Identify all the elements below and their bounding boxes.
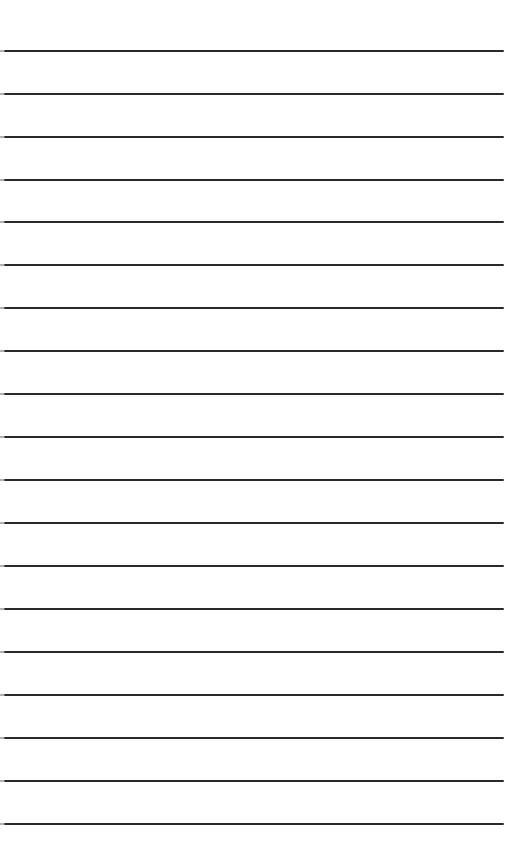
ruled-line [4, 136, 504, 138]
ruled-line [4, 221, 504, 223]
ruled-line [4, 350, 504, 352]
ruled-line [4, 479, 504, 481]
ruled-line [4, 436, 504, 438]
lined-paper [0, 0, 506, 867]
ruled-line [4, 651, 504, 653]
ruled-line [4, 780, 504, 782]
ruled-line [4, 50, 504, 52]
ruled-line [4, 694, 504, 696]
ruled-line [4, 93, 504, 95]
ruled-line [4, 522, 504, 524]
ruled-line [4, 608, 504, 610]
ruled-line [4, 264, 504, 266]
ruled-line [4, 307, 504, 309]
ruled-line [4, 565, 504, 567]
ruled-line [4, 737, 504, 739]
ruled-line [4, 393, 504, 395]
ruled-line [4, 823, 504, 825]
ruled-line [4, 179, 504, 181]
